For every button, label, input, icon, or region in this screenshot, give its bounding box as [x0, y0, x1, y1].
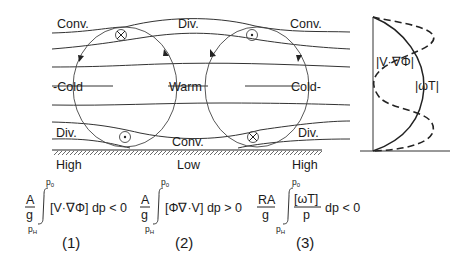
svg-text:p0: p0	[292, 177, 301, 188]
equation-number: (3)	[296, 234, 314, 251]
equation-number: (2)	[175, 234, 193, 251]
svg-text:[V·∇Φ] dp < 0: [V·∇Φ] dp < 0	[50, 201, 127, 215]
label-high-left: High	[56, 158, 82, 172]
diagram-canvas: Conv. Div. Conv. -Cold Warm Cold- Div. C…	[0, 0, 471, 269]
label-omega-t: |ωT|	[415, 79, 439, 93]
out-of-page-icon	[120, 132, 131, 143]
label-bottom-right: Div.	[298, 126, 319, 140]
equation-3: RA g p0 pH [ωT] p dp < 0 (3)	[257, 177, 360, 251]
arrow-icon	[78, 55, 84, 62]
label-top-left: Conv.	[57, 17, 89, 31]
svg-text:p: p	[303, 208, 310, 222]
svg-text:p0: p0	[161, 177, 170, 188]
label-cold-left: -Cold	[53, 80, 83, 94]
svg-text:g: g	[26, 208, 33, 222]
svg-text:[Φ∇·V] dp > 0: [Φ∇·V] dp > 0	[165, 201, 242, 215]
label-advection: |V·∇Φ|	[376, 55, 414, 69]
vertical-profile: |V·∇Φ| |ωT|	[360, 17, 450, 151]
svg-text:[ωT]: [ωT]	[294, 192, 318, 206]
svg-text:pH: pH	[276, 224, 285, 235]
svg-text:pH: pH	[145, 224, 154, 235]
equation-2: A g p0 pH [Φ∇·V] dp > 0 (2)	[140, 177, 242, 251]
label-cold-right: Cold-	[291, 80, 321, 94]
label-bottom-center: Conv.	[172, 135, 204, 149]
label-top-center: Div.	[178, 17, 199, 31]
svg-text:A: A	[141, 193, 150, 207]
arrow-icon	[210, 49, 216, 57]
into-page-icon	[116, 30, 127, 41]
into-page-icon	[248, 132, 259, 143]
svg-text:A: A	[26, 193, 35, 207]
label-high-right: High	[292, 158, 318, 172]
label-bottom-left: Div.	[56, 126, 77, 140]
svg-text:p0: p0	[46, 177, 55, 188]
arrow-icon	[296, 55, 302, 62]
equation-number: (1)	[62, 234, 80, 251]
label-low: Low	[177, 158, 201, 172]
equation-1: A g p0 pH [V·∇Φ] dp < 0 (1)	[25, 177, 127, 251]
svg-text:dp < 0: dp < 0	[325, 201, 360, 215]
svg-text:pH: pH	[28, 224, 37, 235]
ground-surface	[52, 150, 322, 155]
svg-text:RA: RA	[258, 193, 276, 207]
label-warm: Warm	[169, 80, 202, 94]
svg-text:g: g	[262, 208, 269, 222]
label-top-right: Conv.	[290, 17, 322, 31]
svg-text:g: g	[141, 208, 148, 222]
